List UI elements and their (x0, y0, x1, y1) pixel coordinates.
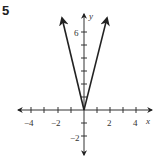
graph: −4 −2 2 4 x 6 −2 y (0, 0, 163, 162)
x-tick-label: 2 (107, 118, 112, 128)
x-tick-label: −2 (51, 118, 61, 128)
x-axis-label: x (145, 116, 150, 126)
graph-right-branch (84, 18, 107, 110)
y-axis-label: y (88, 11, 93, 21)
y-tick-label: −2 (70, 133, 80, 143)
y-tick-label: 6 (74, 28, 79, 38)
graph-left-branch (62, 18, 84, 110)
x-tick-label: −4 (24, 118, 34, 128)
x-tick-label: 4 (133, 118, 138, 128)
